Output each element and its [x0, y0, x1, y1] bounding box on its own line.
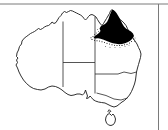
australia-map — [0, 0, 168, 130]
tasmania-outline — [106, 114, 116, 126]
distribution-map-figure: Outline map of Australia with internal s… — [0, 0, 168, 130]
bass-strait-island — [108, 110, 111, 113]
